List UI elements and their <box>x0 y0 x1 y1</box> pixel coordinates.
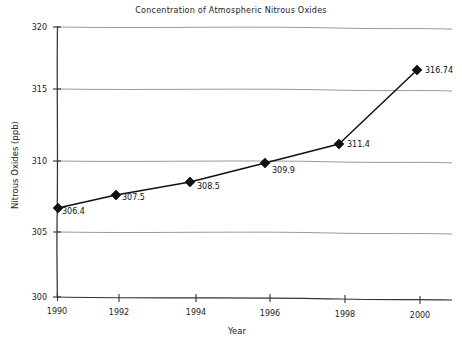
y-tick-label-315: 315 <box>32 85 47 94</box>
chart-title: Concentration of Atmospheric Nitrous Oxi… <box>135 6 327 15</box>
y-tick-label-320: 320 <box>32 23 47 32</box>
x-tick-marks <box>58 293 421 304</box>
data-point-label-1992: 307.5 <box>122 193 145 202</box>
gridlines <box>57 27 452 234</box>
x-axis-title: Year <box>227 326 247 336</box>
data-point-1996 <box>260 158 270 168</box>
data-point-label-1996: 309.9 <box>272 166 295 175</box>
data-point-label-1998: 311.4 <box>347 140 370 149</box>
chart-container: Concentration of Atmospheric Nitrous Oxi… <box>0 0 462 342</box>
x-tick-label-1990: 1990 <box>47 307 67 316</box>
y-tick-label-310: 310 <box>32 157 47 166</box>
gridline-310 <box>57 161 452 163</box>
y-axis-title: Nitrous Oxides (ppb) <box>10 121 20 209</box>
x-tick-label-1996: 1996 <box>260 309 280 318</box>
gridline-320 <box>57 27 452 29</box>
y-tick-label-305: 305 <box>32 228 47 237</box>
gridline-315 <box>57 89 452 91</box>
x-tick-labels: 1990 1992 1994 1996 1998 2000 <box>47 307 430 320</box>
x-axis <box>57 297 452 300</box>
gridline-305 <box>57 232 452 234</box>
line-chart: Concentration of Atmospheric Nitrous Oxi… <box>0 0 462 342</box>
y-tick-labels: 320 315 310 305 300 <box>32 23 47 302</box>
data-point-label-1994: 308.5 <box>197 182 220 191</box>
data-point-1992 <box>111 190 121 200</box>
data-point-1994 <box>185 177 195 187</box>
x-tick-label-1994: 1994 <box>186 308 206 317</box>
y-axis <box>57 26 58 298</box>
x-tick-label-2000: 2000 <box>410 311 430 320</box>
x-tick-label-1992: 1992 <box>109 308 129 317</box>
data-point-label-1990: 306.4 <box>62 207 85 216</box>
x-tick-label-1998: 1998 <box>335 310 355 319</box>
y-tick-label-300: 300 <box>32 293 47 302</box>
data-point-label-2000: 316.74 <box>425 66 453 75</box>
data-markers <box>53 65 422 213</box>
